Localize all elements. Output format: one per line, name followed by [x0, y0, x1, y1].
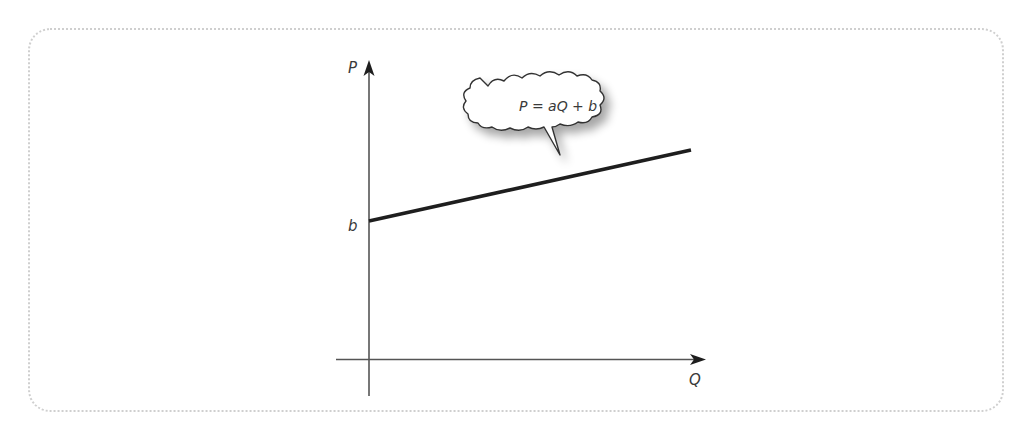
y-axis-label: P: [348, 59, 358, 77]
intercept-label: b: [348, 217, 358, 235]
x-axis-label: Q: [689, 371, 701, 389]
function-line: [369, 150, 691, 221]
y-axis: [364, 60, 375, 396]
linear-graph: P Q b P = aQ + b: [0, 0, 1032, 443]
equation-text: P = aQ + b: [519, 98, 597, 114]
x-axis: [336, 354, 706, 365]
